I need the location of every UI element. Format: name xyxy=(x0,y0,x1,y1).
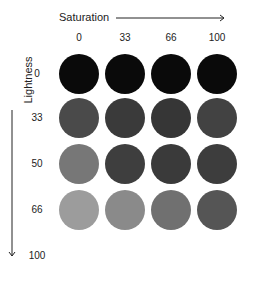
color-swatch xyxy=(197,190,237,230)
color-swatch xyxy=(105,98,145,138)
saturation-tick: 66 xyxy=(151,32,191,44)
saturation-axis-label: Saturation xyxy=(59,11,109,24)
lightness-tick: 50 xyxy=(24,158,50,170)
color-swatch xyxy=(151,98,191,138)
color-swatch xyxy=(105,190,145,230)
color-swatch xyxy=(151,54,191,94)
arrow-down-icon xyxy=(6,110,18,260)
lightness-tick: 33 xyxy=(24,112,50,124)
color-swatch xyxy=(59,190,99,230)
saturation-tick: 0 xyxy=(59,32,99,44)
saturation-tick: 100 xyxy=(197,32,237,44)
color-swatch xyxy=(151,190,191,230)
color-swatch xyxy=(197,54,237,94)
color-swatch xyxy=(59,144,99,184)
lightness-tick: 66 xyxy=(24,204,50,216)
color-swatch xyxy=(59,98,99,138)
lightness-axis-label: Lightness xyxy=(22,55,34,105)
saturation-tick: 33 xyxy=(105,32,145,44)
lightness-tick: 100 xyxy=(24,250,50,262)
color-swatch xyxy=(151,144,191,184)
color-swatch xyxy=(197,144,237,184)
arrow-right-icon xyxy=(116,12,228,24)
lightness-tick: 0 xyxy=(24,68,50,80)
color-swatch xyxy=(197,98,237,138)
color-swatch xyxy=(105,144,145,184)
color-swatch xyxy=(59,54,99,94)
color-swatch xyxy=(105,54,145,94)
